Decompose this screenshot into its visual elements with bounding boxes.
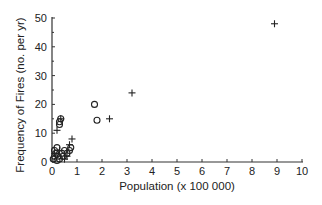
x-tick-label: 5 [174, 165, 180, 177]
x-tick-label: 4 [149, 165, 155, 177]
x-tick-label: 7 [224, 165, 230, 177]
plus-point [106, 115, 113, 122]
scatter-chart: 012345678910 01020304050 Population (x 1… [0, 0, 322, 205]
y-tick-label: 50 [35, 12, 47, 24]
x-tick-label: 6 [199, 165, 205, 177]
plus-point [271, 20, 278, 27]
x-tick-label: 1 [74, 165, 80, 177]
axes [52, 17, 303, 162]
plus-point [129, 89, 136, 96]
circle-point [94, 117, 100, 123]
y-tick-label: 30 [35, 70, 47, 82]
x-tick-label: 10 [296, 165, 308, 177]
y-tick-label: 20 [35, 98, 47, 110]
y-tick-label: 40 [35, 41, 47, 53]
y-tick-label: 0 [41, 156, 47, 168]
data-points [50, 20, 278, 163]
y-tick-label: 10 [35, 127, 47, 139]
x-tick-label: 0 [49, 165, 55, 177]
x-axis-label: Population (x 100 000) [119, 180, 235, 192]
x-tick-label: 9 [274, 165, 280, 177]
y-axis-label: Frequency of Fires (no. per yr) [14, 17, 26, 172]
x-tick-label: 2 [99, 165, 105, 177]
x-tick-label: 3 [124, 165, 130, 177]
circle-point [92, 101, 98, 107]
x-tick-label: 8 [249, 165, 255, 177]
